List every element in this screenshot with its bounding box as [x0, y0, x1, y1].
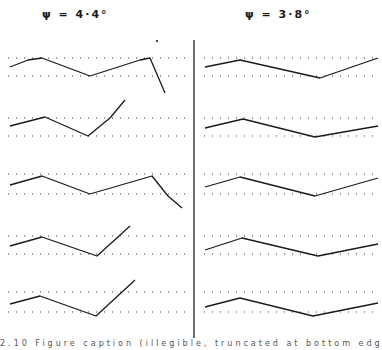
trace-line-col1-row5 [10, 280, 135, 316]
trace-line-col2-row5 [205, 298, 378, 316]
trace-line-col2-row3 [205, 177, 378, 196]
trace-line-col2-row1 [205, 58, 378, 78]
trace-line-col1-row1 [10, 58, 165, 93]
trace-line-col2-row4 [205, 238, 378, 256]
trace-line-col2-row2 [205, 119, 378, 137]
stray-mark [156, 40, 158, 42]
figure-caption: 2.10 Figure caption (illegible, truncate… [0, 339, 382, 348]
trace-line-col1-row4 [10, 226, 130, 256]
trace-line-col1-row2 [10, 100, 125, 136]
trace-line-col1-row3 [10, 176, 182, 208]
waveform-figure [0, 0, 382, 340]
